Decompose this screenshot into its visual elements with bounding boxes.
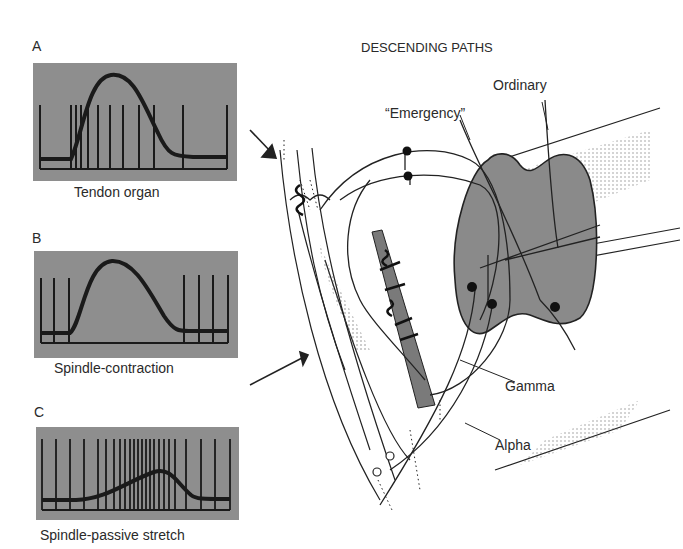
arrow-a-icon (250, 130, 276, 158)
emergency-label: “Emergency” (385, 105, 465, 121)
alpha-label: Alpha (495, 437, 531, 453)
spinal-cord-muscle-diagram (0, 0, 683, 549)
gamma-label: Gamma (505, 378, 555, 394)
arrow-b-icon (250, 352, 308, 385)
descending-paths-title: DESCENDING PATHS (361, 40, 493, 55)
muscle-spindle (372, 230, 435, 408)
ordinary-label: Ordinary (493, 77, 547, 93)
